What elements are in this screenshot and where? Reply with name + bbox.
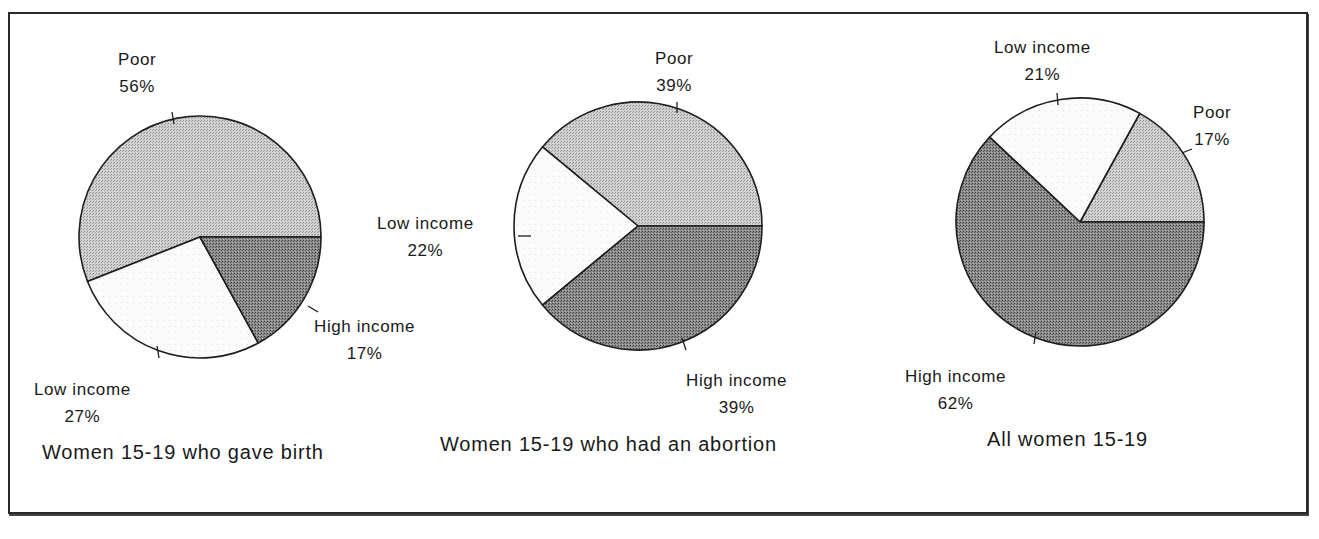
slice-name: Poor [118, 46, 156, 73]
slice-value: 22% [377, 237, 474, 264]
slice-name: Low income [377, 210, 474, 237]
pie-chart-gave-birth [79, 116, 321, 358]
slice-value: 62% [905, 390, 1006, 417]
slice-name: Poor [1193, 99, 1231, 126]
leader-line [1182, 149, 1192, 153]
slice-value: 21% [994, 61, 1091, 88]
chart-title-all-women: All women 15-19 [987, 428, 1148, 451]
slice-name: High income [905, 363, 1006, 390]
slice-value: 39% [686, 394, 787, 421]
slice-value: 17% [314, 340, 415, 367]
slice-name: Low income [994, 34, 1091, 61]
slice-name: High income [686, 367, 787, 394]
leader-line [308, 306, 318, 312]
slice-label-high-income: High income 17% [314, 313, 415, 367]
slice-label-high-income: High income 62% [905, 363, 1006, 417]
slice-label-poor: Poor 56% [118, 46, 156, 100]
slice-name: Poor [655, 45, 693, 72]
slice-label-low-income: Low income 27% [34, 376, 131, 430]
pie-chart-all-women [956, 98, 1204, 346]
slice-value: 39% [655, 72, 693, 99]
slice-value: 27% [34, 403, 131, 430]
slice-name: Low income [34, 376, 131, 403]
chart-title-gave-birth: Women 15-19 who gave birth [42, 441, 324, 464]
slice-label-poor: Poor 39% [655, 45, 693, 99]
slice-label-low-income: Low income 22% [377, 210, 474, 264]
slice-name: High income [314, 313, 415, 340]
pie-chart-abortion [514, 102, 762, 350]
slice-label-poor: Poor 17% [1193, 99, 1231, 153]
slice-value: 17% [1193, 126, 1231, 153]
slice-label-low-income: Low income 21% [994, 34, 1091, 88]
slice-value: 56% [118, 73, 156, 100]
slice-label-high-income: High income 39% [686, 367, 787, 421]
chart-title-abortion: Women 15-19 who had an abortion [440, 433, 777, 456]
